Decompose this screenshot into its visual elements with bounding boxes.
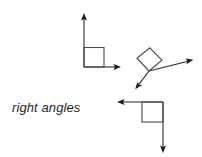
arrow-head-lower-left-icon (135, 82, 142, 89)
right-angle-square-marker (142, 102, 163, 122)
ray-lower-left (139, 71, 150, 85)
right-angle-square-marker (137, 48, 162, 71)
upper-left-right-angle (81, 13, 121, 70)
right-angle-square-marker (84, 48, 104, 68)
diagram-caption: right angles (12, 100, 80, 116)
lower-right-right-angle (117, 99, 166, 153)
right-angles-diagram (0, 0, 202, 157)
rotated-right-angle (135, 48, 193, 89)
